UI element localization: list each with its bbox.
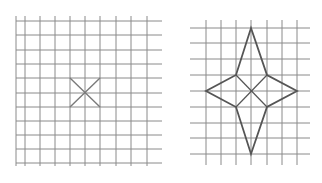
left-grid-figure [16,16,162,166]
right-grid-figure [190,20,310,165]
diagram-canvas [0,0,322,183]
